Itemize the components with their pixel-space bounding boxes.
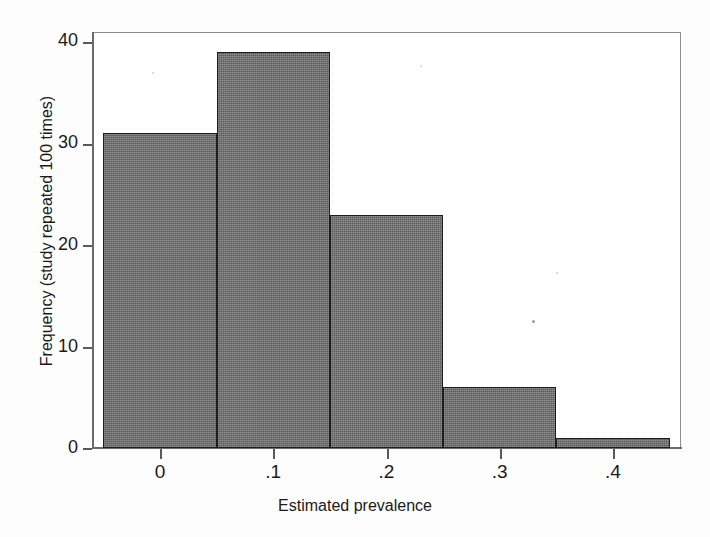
y-tick-40 <box>83 42 92 44</box>
x-tick-label-0: 0 <box>140 462 180 481</box>
histogram-bar <box>556 438 669 448</box>
y-tick-20 <box>83 245 92 247</box>
x-tick-label-0.4: .4 <box>593 462 633 481</box>
x-tick-0.1 <box>273 449 275 459</box>
x-tick-0 <box>160 449 162 459</box>
y-tick-10 <box>83 347 92 349</box>
y-tick-0 <box>83 448 92 450</box>
x-tick-0.2 <box>387 449 389 459</box>
y-tick-30 <box>83 144 92 146</box>
x-tick-label-0.3: .3 <box>480 462 520 481</box>
histogram-bar <box>443 387 556 448</box>
histogram-bar <box>330 215 443 448</box>
bar-series <box>92 32 681 448</box>
histogram-bar <box>217 52 330 448</box>
x-tick-label-0.1: .1 <box>253 462 293 481</box>
y-axis-title: Frequency (study repeated 100 times) <box>38 21 56 441</box>
x-tick-0.4 <box>613 449 615 459</box>
x-tick-label-0.2: .2 <box>367 462 407 481</box>
histogram-figure: 40 30 20 10 0 0 .1 .2 .3 .4 Estimated pr… <box>0 0 710 537</box>
x-axis-title: Estimated prevalence <box>0 497 710 515</box>
histogram-bar <box>103 133 216 448</box>
x-tick-0.3 <box>500 449 502 459</box>
